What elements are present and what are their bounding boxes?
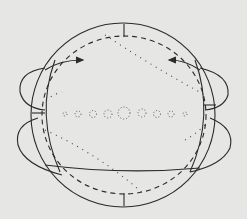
dotted-line-bottom — [45, 130, 145, 195]
left-meridian — [46, 60, 60, 172]
right-arrowhead — [169, 57, 176, 63]
center-dots — [63, 107, 187, 119]
outer-sphere — [31, 23, 215, 207]
right-meridian — [190, 60, 204, 172]
left-arrowhead — [76, 57, 83, 63]
upper-left-loop — [20, 68, 45, 110]
bottom-band — [45, 165, 200, 171]
sphere-diagram — [0, 0, 247, 219]
